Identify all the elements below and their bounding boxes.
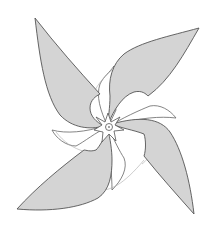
- blade-top-left: [35, 18, 104, 128]
- pinwheel-illustration: [0, 0, 212, 232]
- hub-pin-icon: [108, 126, 110, 128]
